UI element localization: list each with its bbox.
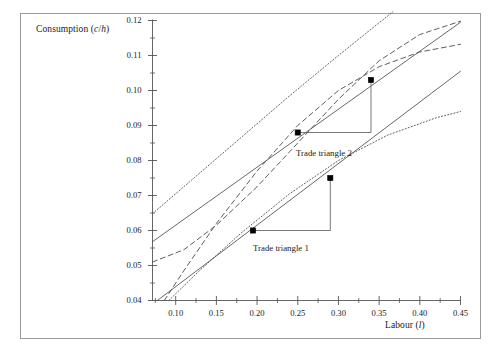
x-tick-label: 0.30 — [321, 308, 355, 318]
x-tick-label: 0.15 — [199, 308, 233, 318]
x-tick-label: 0.25 — [281, 308, 315, 318]
curve-production-frontier-upper — [153, 12, 393, 214]
y-tick-label: 0.04 — [108, 295, 142, 305]
marker-tt2-end — [368, 77, 373, 82]
trade-triangle-2-label: Trade triangle 2 — [296, 148, 352, 158]
curve-budget-line-lower — [157, 71, 460, 300]
x-axis-title-suffix: ) — [422, 320, 425, 330]
trade-triangle-1-label: Trade triangle 1 — [253, 243, 309, 253]
y-tick-label: 0.06 — [108, 225, 142, 235]
curve-indifference-curve-upper — [153, 21, 461, 262]
x-tick-label: 0.10 — [159, 308, 193, 318]
y-axis-title-suffix: ) — [106, 24, 109, 34]
marker-tt1-end — [328, 175, 333, 180]
marker-tt1-start — [250, 228, 255, 233]
y-axis-title: Consumption (c/h) — [36, 24, 109, 34]
y-tick-label: 0.10 — [108, 85, 142, 95]
x-tick-label: 0.35 — [362, 308, 396, 318]
y-tick-label: 0.07 — [108, 190, 142, 200]
marker-tt2-start — [295, 130, 300, 135]
y-tick-label: 0.05 — [108, 260, 142, 270]
x-axis-title: Labour (l) — [385, 320, 425, 330]
curve-production-frontier-lower — [169, 112, 461, 301]
x-tick-label: 0.20 — [240, 308, 274, 318]
plot-canvas — [0, 0, 501, 352]
x-tick-label: 0.40 — [403, 308, 437, 318]
x-tick-label: 0.45 — [444, 308, 478, 318]
y-tick-label: 0.12 — [108, 15, 142, 25]
y-axis-title-prefix: Consumption ( — [36, 24, 94, 34]
y-tick-label: 0.11 — [108, 50, 142, 60]
y-tick-label: 0.08 — [108, 155, 142, 165]
y-tick-label: 0.09 — [108, 120, 142, 130]
x-axis-title-prefix: Labour ( — [385, 320, 419, 330]
curve-budget-line-upper — [153, 22, 461, 241]
